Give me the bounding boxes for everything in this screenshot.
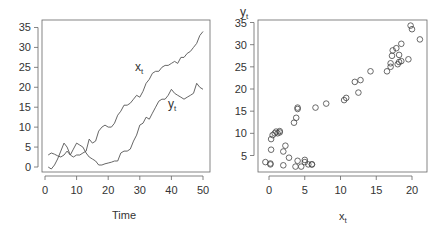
scatter-point xyxy=(396,52,402,58)
line-series xyxy=(48,32,203,170)
y-tick-label: 15 xyxy=(235,105,247,117)
scatter-plot: 05101520 5101520253035 yt xt xyxy=(235,5,427,225)
x-axis-title-time: Time xyxy=(112,209,136,221)
scatter-point xyxy=(417,37,423,43)
x-tick-label: 5 xyxy=(302,184,308,196)
x-axis-left: 01020304050 xyxy=(42,176,209,196)
x-axis-title-xt: xt xyxy=(339,210,348,225)
scatter-point xyxy=(399,41,405,47)
scatter-point xyxy=(408,23,414,29)
y-tick-label: 25 xyxy=(19,61,31,73)
scatter-point xyxy=(293,164,299,170)
x-tick-label: 50 xyxy=(197,184,209,196)
scatter-point xyxy=(281,149,287,155)
y-tick-label: 30 xyxy=(235,39,247,51)
y-axis-left: 05101520253035 xyxy=(19,21,38,173)
scatter-point xyxy=(352,79,358,85)
x-axis-right: 05101520 xyxy=(266,176,418,196)
x-tick-label: 0 xyxy=(42,184,48,196)
x-tick-label: 20 xyxy=(406,184,418,196)
y-tick-label: 10 xyxy=(19,121,31,133)
y-tick-label: 25 xyxy=(235,61,247,73)
series-label-yt: yt xyxy=(168,97,177,113)
scatter-point xyxy=(388,61,394,67)
scatter-point xyxy=(356,90,362,96)
y-tick-label: 5 xyxy=(25,141,31,153)
y-tick-label: 20 xyxy=(235,83,247,95)
scatter-point xyxy=(389,53,395,59)
scatter-point xyxy=(368,69,374,75)
y-axis-right: 5101520253035 xyxy=(235,17,254,162)
scatter-point xyxy=(268,147,274,153)
scatter-point xyxy=(358,77,364,83)
scatter-points xyxy=(263,23,423,170)
scatter-point xyxy=(406,57,412,63)
scatter-point xyxy=(313,105,319,111)
x-tick-label: 15 xyxy=(370,184,382,196)
y-tick-label: 20 xyxy=(19,81,31,93)
x-tick-label: 10 xyxy=(334,184,346,196)
y-tick-label: 5 xyxy=(241,150,247,162)
figure: 01020304050 05101520253035 xt yt Time 05… xyxy=(0,0,448,235)
y-tick-label: 10 xyxy=(235,127,247,139)
x-tick-label: 10 xyxy=(70,184,82,196)
line-xt xyxy=(48,32,203,158)
plot-frame-right xyxy=(258,20,427,172)
scatter-point xyxy=(283,143,289,149)
scatter-point xyxy=(409,26,415,32)
scatter-point xyxy=(323,101,329,107)
x-tick-label: 0 xyxy=(266,184,272,196)
series-label-xt: xt xyxy=(135,60,144,76)
y-tick-label: 35 xyxy=(19,21,31,33)
x-tick-label: 40 xyxy=(165,184,177,196)
scatter-point xyxy=(295,158,301,164)
y-tick-label: 15 xyxy=(19,101,31,113)
scatter-point xyxy=(293,115,299,121)
x-tick-label: 20 xyxy=(102,184,114,196)
y-tick-label: 0 xyxy=(25,161,31,173)
plot-frame-left xyxy=(42,20,210,172)
y-axis-title-yt: yt xyxy=(240,5,249,21)
scatter-point xyxy=(286,155,292,161)
scatter-point xyxy=(281,163,287,169)
y-tick-label: 30 xyxy=(19,41,31,53)
x-tick-label: 30 xyxy=(134,184,146,196)
time-series-plot: 01020304050 05101520253035 xt yt Time xyxy=(19,20,210,221)
